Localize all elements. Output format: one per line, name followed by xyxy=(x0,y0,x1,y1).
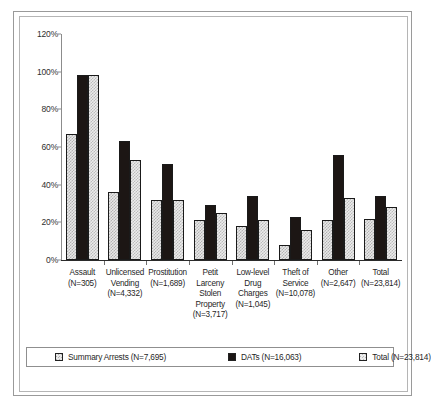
x-axis-label-line: Other xyxy=(318,268,359,279)
bar xyxy=(77,75,88,260)
bar xyxy=(194,220,205,260)
y-axis-tick-label: 60% xyxy=(14,142,62,152)
y-axis-tick-label: 20% xyxy=(14,217,62,227)
bar xyxy=(364,219,375,260)
bar-cluster xyxy=(189,34,232,260)
x-axis-label: Assault(N=305) xyxy=(61,268,104,321)
y-axis-tick-label: 120% xyxy=(14,29,62,39)
legend-item[interactable]: Total (N=23,814) xyxy=(359,352,430,362)
x-axis-label-line: Drug xyxy=(233,279,274,290)
bar xyxy=(290,217,301,260)
x-axis-label-line: (N=305) xyxy=(62,279,103,290)
legend-label: Total (N=23,814) xyxy=(372,352,430,362)
x-axis-label-line: (N=3,717) xyxy=(190,310,231,321)
x-axis-tick-mark xyxy=(274,261,275,265)
legend-label: Summary Arrests (N=7,695) xyxy=(68,352,166,362)
bar xyxy=(333,155,344,260)
x-axis-label: Low-levelDrugCharges(N=1,045) xyxy=(232,268,275,321)
x-axis-label-line: Unlicensed xyxy=(105,268,146,279)
x-axis-label-line: Vending xyxy=(105,279,146,290)
x-axis-tick-mark xyxy=(232,261,233,265)
bar xyxy=(66,134,77,260)
legend-item[interactable]: Summary Arrests (N=7,695) xyxy=(55,352,166,362)
chart-outer-frame: 120%100%80%60%40%20%0% Assault(N=305)Unl… xyxy=(13,11,412,396)
bar-cluster-group xyxy=(61,34,402,260)
x-axis-tick-mark xyxy=(104,261,105,265)
x-axis-label: UnlicensedVending(N=4,332) xyxy=(104,268,147,321)
bar-cluster xyxy=(232,34,275,260)
x-axis-label: Total(N=23,814) xyxy=(359,268,402,321)
bar-cluster xyxy=(359,34,402,260)
bar xyxy=(151,200,162,260)
x-axis-label: Other(N=2,647) xyxy=(317,268,360,321)
x-axis-label-line: Charges xyxy=(233,289,274,300)
x-axis-label-line: Total xyxy=(360,268,401,279)
bar-cluster xyxy=(274,34,317,260)
x-axis-label-line: Larceny xyxy=(190,279,231,290)
bar-cluster xyxy=(146,34,189,260)
bar-cluster xyxy=(317,34,360,260)
bar xyxy=(247,196,258,260)
y-axis-tick-label: 80% xyxy=(14,104,62,114)
bar xyxy=(173,200,184,260)
chart-plot-wrapper: 120%100%80%60%40%20%0% Assault(N=305)Unl… xyxy=(14,12,413,397)
x-axis-label-line: Assault xyxy=(62,268,103,279)
x-axis-label-line: Service xyxy=(275,279,316,290)
x-axis-label-line: Theft of xyxy=(275,268,316,279)
bar xyxy=(301,230,312,260)
y-axis-tick-label: 40% xyxy=(14,180,62,190)
bar xyxy=(344,198,355,260)
chart-legend: Summary Arrests (N=7,695)DATs (N=16,063)… xyxy=(26,347,394,367)
bar xyxy=(216,213,227,260)
legend-swatch-icon xyxy=(228,353,236,361)
bar xyxy=(88,75,99,260)
x-axis-label-line: (N=23,814) xyxy=(360,279,401,290)
x-axis-tick-mark xyxy=(189,261,190,265)
bar xyxy=(322,220,333,260)
legend-item[interactable]: DATs (N=16,063) xyxy=(228,352,301,362)
bar xyxy=(130,160,141,260)
x-axis-label-line: (N=10,078) xyxy=(275,289,316,300)
x-axis-label: Prostitution(N=1,689) xyxy=(146,268,189,321)
bar xyxy=(119,141,130,260)
x-axis-tick-mark xyxy=(146,261,147,265)
x-axis-label: Theft ofService(N=10,078) xyxy=(274,268,317,321)
x-axis-label-line: (N=1,689) xyxy=(147,279,188,290)
x-axis-label-line: (N=2,647) xyxy=(318,279,359,290)
bar xyxy=(108,192,119,260)
x-axis-label-line: Stolen xyxy=(190,289,231,300)
x-axis-label-line: Petit xyxy=(190,268,231,279)
x-axis-label: PetitLarcenyStolenProperty(N=3,717) xyxy=(189,268,232,321)
x-axis-tick-mark xyxy=(359,261,360,265)
x-axis-label-line: Prostitution xyxy=(147,268,188,279)
bar-cluster xyxy=(104,34,147,260)
x-axis-label-line: (N=4,332) xyxy=(105,289,146,300)
bar xyxy=(375,196,386,260)
bar xyxy=(258,220,269,260)
y-axis-tick-label: 100% xyxy=(14,67,62,77)
bar xyxy=(386,207,397,260)
x-axis-label-line: Low-level xyxy=(233,268,274,279)
y-axis-tick-label: 0% xyxy=(14,255,62,265)
bar-cluster xyxy=(61,34,104,260)
bar xyxy=(162,164,173,260)
legend-swatch-icon xyxy=(55,353,63,361)
bar xyxy=(205,205,216,260)
legend-swatch-icon xyxy=(359,353,367,361)
legend-label: DATs (N=16,063) xyxy=(241,352,301,362)
x-axis-labels: Assault(N=305)UnlicensedVending(N=4,332)… xyxy=(61,268,402,321)
x-axis-label-line: (N=1,045) xyxy=(233,300,274,311)
x-axis-tick-mark xyxy=(317,261,318,265)
x-axis-label-line: Property xyxy=(190,300,231,311)
bar xyxy=(236,226,247,260)
bar xyxy=(279,245,290,260)
x-axis-tick-marks xyxy=(61,261,402,266)
